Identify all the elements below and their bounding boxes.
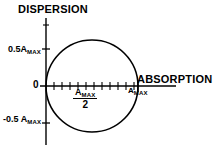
dispersion-axis-title: DISPERSION — [18, 4, 88, 15]
fraction-numerator-subscript: MAX — [82, 92, 96, 98]
dispersion-absorption-figure: DISPERSION ABSORPTION 0.5AMAX -0.5 AMAX … — [0, 0, 213, 153]
y-axis-label-positive-half-subscript: MAX — [27, 49, 41, 55]
absorption-axis-title: ABSORPTION — [137, 74, 212, 85]
origin-label: 0 — [33, 80, 39, 90]
x-axis-label-amax-text: A — [128, 86, 134, 95]
fraction-numerator: AMAX — [73, 88, 97, 98]
y-axis-label-negative-half-text: -0.5 A — [3, 114, 27, 124]
y-axis-label-negative-half-subscript: MAX — [27, 119, 41, 125]
y-axis-label-positive-half-text: 0.5A — [8, 44, 27, 54]
dispersion-axis-title-text: DISPERSION — [18, 3, 88, 15]
circle-center-fraction-label: AMAX 2 — [73, 88, 97, 110]
y-axis-label-negative-half: -0.5 AMAX — [3, 115, 41, 124]
fraction-numerator-text: A — [75, 87, 82, 97]
origin-label-text: 0 — [33, 79, 39, 90]
absorption-axis-title-text: ABSORPTION — [137, 73, 212, 85]
fraction-denominator: 2 — [73, 99, 97, 110]
x-axis-label-amax: AMAX — [128, 87, 148, 95]
y-axis-label-positive-half: 0.5AMAX — [8, 45, 41, 54]
x-axis-label-amax-subscript: MAX — [134, 90, 148, 96]
